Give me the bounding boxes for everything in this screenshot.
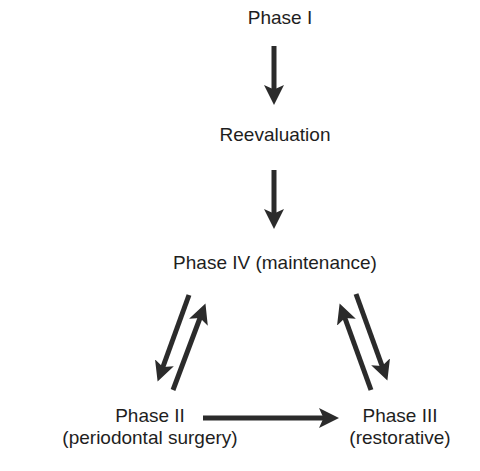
arrows-layer <box>0 0 480 471</box>
figure-caption-clipped <box>0 464 480 471</box>
